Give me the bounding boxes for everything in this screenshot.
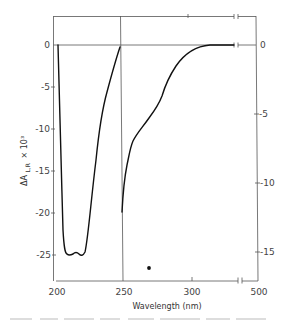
y-axis-title: ΔA L,R × 10³ [20, 136, 32, 186]
x-tick-label: 500 [250, 287, 267, 297]
x-tick-labels: 200 250 300 500 [48, 287, 267, 297]
y-axis-title-delta: ΔA [20, 175, 29, 186]
curve-left-segment [58, 45, 120, 255]
svg-text:ΔA L,R × 10³: ΔA L,R × 10³ [20, 136, 32, 186]
caption-remnant [10, 318, 266, 320]
data-point [147, 266, 151, 270]
chart: 0 -5 -10 -15 -20 -25 0 -5 -10 -15 200 25… [0, 0, 287, 322]
right-tick-label: -15 [260, 247, 275, 257]
left-tick-label: -15 [35, 166, 50, 176]
plot-frame [54, 14, 259, 284]
right-tick-label: -10 [260, 178, 275, 188]
curve-right-segment [122, 45, 234, 212]
left-tick-label: 0 [44, 40, 50, 50]
left-tick-label: -25 [36, 250, 51, 260]
x-tick-label: 200 [48, 287, 65, 297]
left-tick-label: -5 [41, 82, 50, 92]
x-ticks [188, 14, 192, 281]
y-axis-title-multiplier: × 10³ [20, 136, 29, 159]
x-tick-label: 250 [115, 287, 132, 297]
y-axis-title-subscript: L,R [24, 163, 31, 172]
x-tick-label: 300 [183, 287, 200, 297]
right-tick-label: 0 [260, 40, 266, 50]
right-y-tick-labels: 0 -5 -10 -15 [259, 40, 275, 257]
x-axis-title: Wavelength (nm) [132, 302, 201, 311]
right-tick-label: -5 [259, 109, 268, 119]
left-tick-label: -10 [35, 124, 50, 134]
left-tick-label: -20 [35, 208, 50, 218]
data-curves [58, 45, 234, 255]
left-y-tick-labels: 0 -5 -10 -15 -20 -25 [35, 40, 51, 260]
